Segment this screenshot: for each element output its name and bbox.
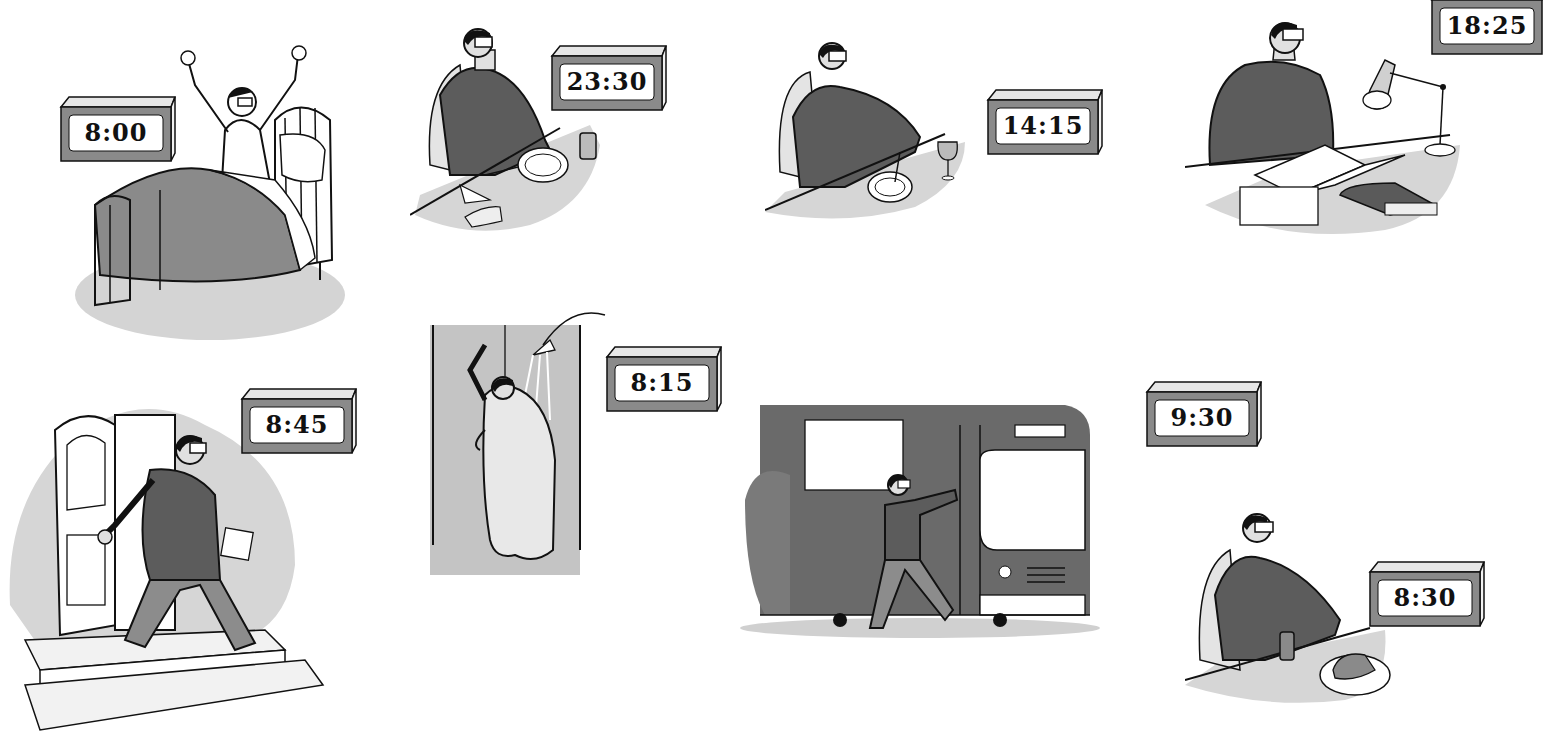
clock-lunch: 14:15	[984, 88, 1104, 158]
clock-time: 9:30	[1151, 400, 1253, 434]
scene-bus	[735, 400, 1105, 640]
bed-illustration	[70, 40, 360, 345]
clock-bus: 9:30	[1143, 380, 1263, 450]
clock-time: 18:25	[1436, 8, 1538, 42]
lunch-illustration	[765, 42, 970, 222]
breakfast-illustration	[1185, 510, 1395, 710]
clock-time: 8:45	[246, 407, 348, 441]
scene-reading	[1185, 15, 1465, 245]
clock-time: 8:30	[1374, 580, 1476, 614]
scene-breakfast	[1185, 510, 1395, 710]
clock-breakfast: 8:30	[1366, 560, 1486, 630]
clock-time: 14:15	[992, 108, 1094, 142]
shower-illustration	[425, 310, 615, 580]
clock-leave-home: 8:45	[238, 387, 358, 457]
bus-illustration	[735, 400, 1105, 640]
clock-time: 23:30	[556, 64, 658, 98]
clock-shower: 8:15	[603, 345, 723, 415]
clock-reading: 18:25	[1428, 0, 1547, 58]
clock-time: 8:15	[611, 365, 713, 399]
clock-wake-up: 8:00	[57, 95, 177, 165]
reading-illustration	[1185, 15, 1465, 245]
scene-shower	[425, 310, 615, 580]
clock-time: 8:00	[65, 115, 167, 149]
scene-lunch	[765, 42, 970, 222]
cropped-caption	[0, 0, 1527, 5]
clock-dinner: 23:30	[548, 44, 668, 114]
scene-wake-up	[70, 40, 360, 345]
